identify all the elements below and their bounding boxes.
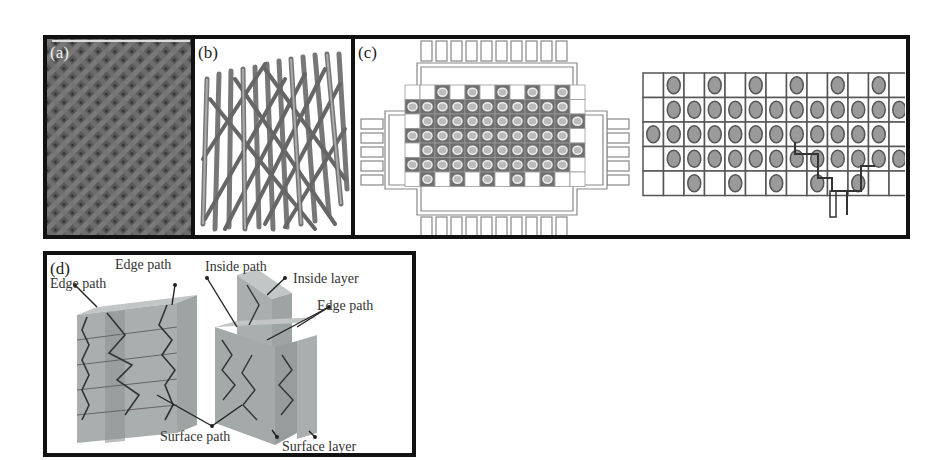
yarn-carrier-dot: [831, 126, 844, 143]
yarn-carrier-dot: [688, 126, 701, 143]
yarn-grid-diagram: [635, 39, 905, 235]
yarn-carrier-dot: [872, 150, 885, 167]
annotation-inside-layer: Inside layer: [293, 272, 359, 286]
yarn-carrier-dot: [790, 150, 803, 167]
yarn-carrier-dot: [749, 77, 762, 94]
yarn-carrier-dot: [790, 101, 803, 118]
panel-b: (b): [191, 35, 355, 239]
yarn-carrier-dot: [667, 150, 680, 167]
panel-a-label: (a): [50, 44, 69, 61]
yarn-carrier-dot: [852, 126, 865, 143]
yarn-carrier-dot: [831, 150, 844, 167]
yarn-carrier-dot: [790, 77, 803, 94]
yarn-carrier-dot: [811, 126, 824, 143]
yarn-carrier-dot: [749, 126, 762, 143]
braided-yarn-rendering: [195, 39, 351, 235]
yarn-carrier-dot: [667, 77, 680, 94]
annotation-surface-layer: Surface layer: [282, 440, 356, 454]
annotation-edge-path-top: Edge path: [115, 258, 171, 272]
yarn-carrier-dot: [688, 150, 701, 167]
yarn-carrier-dot: [647, 126, 660, 143]
yarn-carrier-dot: [667, 126, 680, 143]
carrier-layout-diagram: [355, 39, 635, 235]
yarn-carrier-dot: [688, 101, 701, 118]
yarn-carrier-dot: [831, 101, 844, 118]
right-block: [215, 269, 317, 445]
yarn-carrier-dot: [729, 101, 742, 118]
yarn-carrier-dot: [688, 175, 701, 192]
yarn-carrier-dot: [770, 101, 783, 118]
panel-c: (c): [351, 35, 910, 239]
yarn-carrier-dot: [667, 101, 680, 118]
panel-d: (d): [43, 251, 416, 457]
yarn-carrier-dot: [708, 101, 721, 118]
yarn-carrier-dot: [872, 101, 885, 118]
yarn-carrier-dot: [770, 126, 783, 143]
yarn-carrier-dot: [770, 150, 783, 167]
annotation-edge-path-right: Edge path: [317, 299, 373, 313]
yarn-carrier-dot: [790, 126, 803, 143]
yarn-carrier-dot: [852, 175, 865, 192]
yarn-carrier-dot: [729, 150, 742, 167]
left-block: [77, 295, 197, 443]
yarn-carrier-dot: [811, 101, 824, 118]
yarn-carrier-dot: [708, 77, 721, 94]
yarn-carrier-dot: [708, 126, 721, 143]
yarn-carrier-dot: [749, 150, 762, 167]
annotation-surface-path: Surface path: [160, 430, 230, 444]
yarn-carrier-dot: [872, 77, 885, 94]
yarn-carrier-dot: [770, 175, 783, 192]
annotation-inside-path: Inside path: [205, 260, 267, 274]
yarn-carrier-dot: [872, 126, 885, 143]
yarn-carrier-dot: [852, 101, 865, 118]
yarn-carrier-dot: [729, 175, 742, 192]
panel-a: (a): [43, 35, 195, 239]
yarn-carrier-dot: [893, 101, 905, 118]
yarn-carrier-dot: [893, 150, 905, 167]
yarn-carrier-dot: [729, 126, 742, 143]
yarn-carrier-dot: [749, 101, 762, 118]
yarn-carrier-dot: [852, 150, 865, 167]
panel-b-label: (b): [198, 44, 218, 61]
yarn-carrier-dot: [708, 150, 721, 167]
fabric-texture: [47, 39, 191, 235]
yarn-carrier-dot: [831, 77, 844, 94]
annotation-edge-path-left: Edge path: [50, 277, 106, 291]
